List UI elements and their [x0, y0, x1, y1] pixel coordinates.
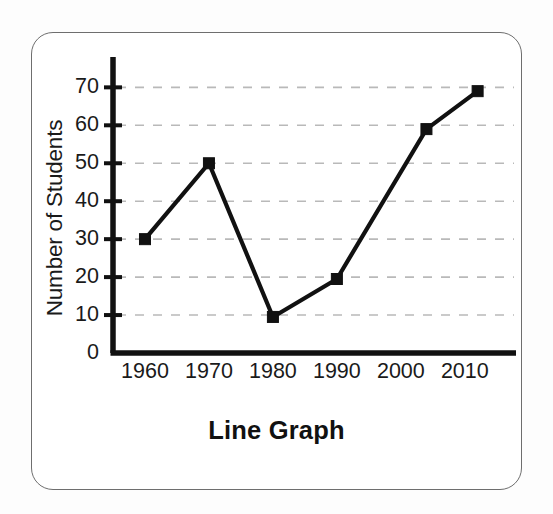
line-graph-screenshot: Number of Students 010203040506070 19601…: [0, 0, 553, 514]
chart-title: Line Graph: [31, 416, 522, 445]
